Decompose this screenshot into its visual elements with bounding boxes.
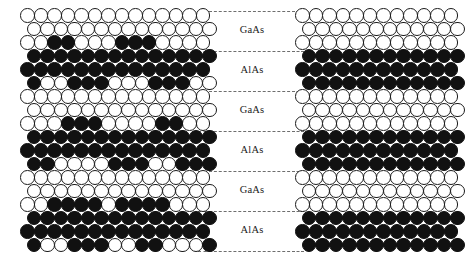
al-atom bbox=[315, 76, 330, 91]
ga-atom bbox=[54, 103, 69, 118]
al-atom bbox=[40, 211, 55, 226]
ga-atom bbox=[196, 116, 211, 131]
al-atom bbox=[329, 49, 344, 64]
ga-atom bbox=[403, 197, 418, 212]
al-atom bbox=[108, 157, 123, 172]
ga-atom bbox=[349, 197, 364, 212]
ga-atom bbox=[383, 22, 398, 37]
al-atom bbox=[175, 130, 190, 145]
ga-atom bbox=[162, 184, 177, 199]
ga-atom bbox=[74, 170, 89, 185]
al-atom bbox=[189, 157, 204, 172]
al-atom bbox=[47, 197, 62, 212]
ga-atom bbox=[162, 22, 177, 37]
al-atom bbox=[342, 211, 357, 226]
al-atom bbox=[369, 76, 384, 91]
ga-atom bbox=[20, 170, 35, 185]
layer-divider-2 bbox=[209, 91, 295, 92]
ga-atom bbox=[349, 116, 364, 131]
al-atom bbox=[135, 238, 150, 253]
ga-atom bbox=[444, 8, 459, 23]
al-atom bbox=[27, 157, 42, 172]
ga-atom bbox=[450, 22, 465, 37]
al-atom bbox=[20, 143, 35, 158]
al-atom bbox=[175, 49, 190, 64]
ga-atom bbox=[363, 8, 378, 23]
ga-atom bbox=[369, 103, 384, 118]
al-atom bbox=[196, 62, 211, 77]
al-atom bbox=[376, 143, 391, 158]
ga-atom bbox=[20, 8, 35, 23]
al-atom bbox=[444, 224, 459, 239]
ga-atom bbox=[322, 197, 337, 212]
al-atom bbox=[383, 211, 398, 226]
ga-atom bbox=[61, 89, 76, 104]
ga-atom bbox=[336, 197, 351, 212]
ga-atom bbox=[54, 238, 69, 253]
ga-atom bbox=[189, 238, 204, 253]
al-atom bbox=[403, 224, 418, 239]
al-atom bbox=[309, 143, 324, 158]
al-atom bbox=[182, 62, 197, 77]
al-atom bbox=[148, 76, 163, 91]
layer-divider-1 bbox=[209, 51, 295, 52]
ga-atom bbox=[40, 238, 55, 253]
al-atom bbox=[329, 76, 344, 91]
al-atom bbox=[363, 62, 378, 77]
al-atom bbox=[108, 130, 123, 145]
ga-atom bbox=[54, 184, 69, 199]
ga-atom bbox=[322, 170, 337, 185]
ga-atom bbox=[349, 8, 364, 23]
ga-atom bbox=[74, 8, 89, 23]
al-atom bbox=[302, 76, 317, 91]
ga-atom bbox=[101, 116, 116, 131]
superlattice-figure: GaAsAlAsGaAsAlAsGaAsAlAs bbox=[0, 0, 470, 262]
ga-atom bbox=[430, 116, 445, 131]
ga-atom bbox=[363, 197, 378, 212]
al-atom bbox=[430, 224, 445, 239]
al-atom bbox=[315, 211, 330, 226]
ga-atom bbox=[34, 89, 49, 104]
al-atom bbox=[162, 211, 177, 226]
ga-atom bbox=[115, 170, 130, 185]
al-atom bbox=[169, 116, 184, 131]
al-atom bbox=[369, 238, 384, 253]
al-atom bbox=[81, 238, 96, 253]
ga-atom bbox=[376, 8, 391, 23]
al-atom bbox=[302, 211, 317, 226]
al-atom bbox=[67, 211, 82, 226]
ga-atom bbox=[444, 116, 459, 131]
ga-atom bbox=[329, 184, 344, 199]
ga-atom bbox=[356, 184, 371, 199]
al-atom bbox=[295, 143, 310, 158]
ga-atom bbox=[403, 170, 418, 185]
ga-atom bbox=[182, 116, 197, 131]
ga-atom bbox=[196, 35, 211, 50]
ga-atom bbox=[108, 184, 123, 199]
al-atom bbox=[423, 76, 438, 91]
ga-atom bbox=[128, 89, 143, 104]
ga-atom bbox=[94, 22, 109, 37]
ga-atom bbox=[196, 170, 211, 185]
ga-atom bbox=[383, 103, 398, 118]
ga-atom bbox=[189, 76, 204, 91]
ga-atom bbox=[403, 89, 418, 104]
al-atom bbox=[88, 197, 103, 212]
al-atom bbox=[196, 224, 211, 239]
al-atom bbox=[101, 62, 116, 77]
ga-atom bbox=[74, 89, 89, 104]
al-atom bbox=[450, 238, 465, 253]
ga-atom bbox=[182, 89, 197, 104]
ga-atom bbox=[383, 184, 398, 199]
al-atom bbox=[410, 157, 425, 172]
ga-atom bbox=[40, 76, 55, 91]
al-atom bbox=[162, 49, 177, 64]
ga-atom bbox=[81, 184, 96, 199]
ga-atom bbox=[450, 103, 465, 118]
ga-atom bbox=[128, 116, 143, 131]
al-atom bbox=[54, 211, 69, 226]
ga-atom bbox=[148, 157, 163, 172]
al-atom bbox=[369, 211, 384, 226]
al-atom bbox=[115, 197, 130, 212]
al-atom bbox=[396, 76, 411, 91]
